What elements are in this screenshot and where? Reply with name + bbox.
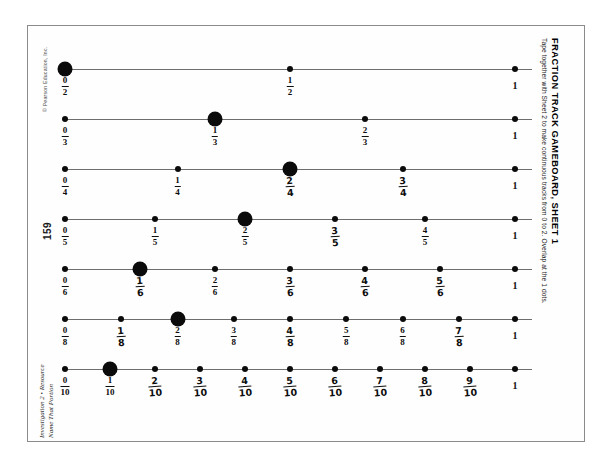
track-dot[interactable] [212,266,218,272]
tick-label: 35 [331,226,340,249]
track-dot[interactable] [287,366,293,372]
fraction-label: 28 [174,326,181,347]
fraction-denominator: 10 [283,387,297,398]
track-dot[interactable] [422,366,428,372]
track-dot[interactable] [62,166,68,172]
fraction-label: 810 [418,376,433,398]
track-dot[interactable] [62,366,68,372]
track-dot[interactable] [512,266,518,272]
tick-label: 38 [231,326,238,348]
track-dot[interactable] [332,366,338,372]
track-dot[interactable] [62,216,68,222]
fraction-numerator: 2 [362,126,369,137]
track-dot[interactable] [332,216,338,222]
fraction-label: 110 [106,376,115,397]
track-dot[interactable] [231,316,237,322]
track-dot[interactable] [362,116,368,122]
tick-label: 13 [212,126,219,148]
fraction-denominator: 2 [62,87,69,97]
track-dot[interactable] [175,166,181,172]
fraction-denominator: 6 [136,287,145,298]
track-dot[interactable] [62,316,68,322]
tick-label: 18 [117,326,126,349]
tick-label: 1 [513,226,518,242]
track-dot[interactable] [512,366,518,372]
whole-number-label: 1 [513,277,518,291]
tick-label: 310 [193,376,206,399]
track-dot[interactable] [152,366,158,372]
tick-label: 810 [418,376,431,399]
track-dot[interactable] [512,66,518,72]
fraction-numerator: 2 [285,176,294,188]
fraction-denominator: 3 [62,137,69,147]
track-line [65,319,532,320]
fraction-numerator: 5 [435,276,444,288]
tick-label: 910 [463,376,476,399]
track-dot[interactable] [400,166,406,172]
track-dot[interactable] [62,116,68,122]
fraction-denominator: 10 [418,387,432,398]
track-dot[interactable] [152,216,158,222]
fraction-denominator: 5 [62,237,69,247]
fraction-denominator: 4 [62,187,69,197]
fraction-label: 35 [330,226,340,248]
fraction-numerator: 1 [174,176,181,187]
track-dot[interactable] [242,366,248,372]
fraction-label: 15 [152,226,159,247]
track-dot[interactable] [287,316,293,322]
track-dot[interactable] [287,266,293,272]
fraction-numerator: 1 [212,126,219,137]
fraction-label: 45 [422,226,429,247]
tick-label: 34 [398,176,407,199]
track-dot[interactable] [512,166,518,172]
fraction-label: 25 [242,226,249,247]
fraction-label: 04 [62,176,69,197]
fraction-track-eighths: 08182838485868781 [0,305,613,355]
track-dot[interactable] [362,266,368,272]
fraction-numerator: 1 [135,276,144,288]
fraction-denominator: 8 [62,337,69,347]
track-dot[interactable] [400,316,406,322]
fraction-label: 23 [362,126,369,147]
fraction-numerator: 3 [285,276,294,288]
fraction-denominator: 10 [373,387,387,398]
track-dot[interactable] [422,216,428,222]
tick-label: 06 [62,276,69,298]
track-dot[interactable] [377,366,383,372]
tick-label: 56 [436,276,445,299]
track-dot[interactable] [118,316,124,322]
tick-label: 26 [212,276,219,298]
fraction-numerator: 3 [330,226,339,238]
tick-label: 710 [373,376,386,399]
fraction-numerator: 5 [343,326,350,337]
tick-label: 12 [287,76,294,98]
fraction-denominator: 3 [212,137,219,147]
track-dot[interactable] [287,66,293,72]
fraction-denominator: 5 [242,237,249,247]
fraction-label: 13 [212,126,219,147]
fraction-denominator: 5 [331,237,340,248]
tick-label: 110 [106,376,115,398]
fraction-denominator: 5 [422,237,429,247]
fraction-denominator: 8 [286,337,295,348]
fraction-denominator: 10 [238,387,252,398]
track-dot[interactable] [456,316,462,322]
track-dot[interactable] [343,316,349,322]
track-dot[interactable] [197,366,203,372]
fraction-label: 03 [62,126,69,147]
tick-label: 610 [328,376,341,399]
whole-number-label: 1 [513,327,518,341]
track-dot[interactable] [437,266,443,272]
whole-number-label: 1 [513,177,518,191]
fraction-denominator: 8 [174,337,181,347]
tick-label: 25 [242,226,249,248]
fraction-label: 46 [360,276,370,298]
fraction-numerator: 6 [399,326,406,337]
track-dot[interactable] [62,266,68,272]
tick-label: 1 [513,376,518,392]
track-dot[interactable] [512,316,518,322]
track-dot[interactable] [467,366,473,372]
track-dot[interactable] [512,116,518,122]
track-dot[interactable] [512,216,518,222]
whole-number-label: 1 [513,227,518,241]
